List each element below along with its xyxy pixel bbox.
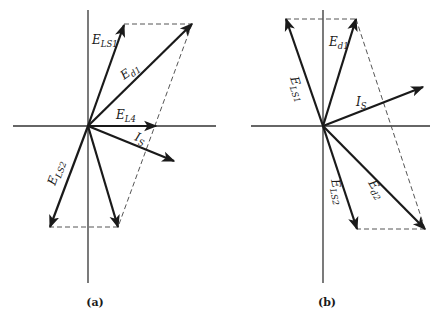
panel-a-phasor-diagram: ELS1Ed1EL4ISELS2(a)	[13, 10, 216, 309]
phasor-label: Ed1	[328, 35, 349, 51]
phasor-i-s	[323, 87, 423, 126]
phasor-label: EL4	[115, 108, 136, 124]
phasor-label: ELS1	[285, 74, 308, 104]
phasor-label: ELS1	[91, 33, 118, 49]
panel-caption: (a)	[86, 296, 104, 309]
dashed-construction-line	[356, 19, 425, 229]
phasor-label: IS	[355, 95, 367, 111]
phasor-e-ls1	[286, 19, 323, 126]
phasor-label: Ed1	[117, 60, 143, 85]
phasor-label: ELS2	[44, 158, 68, 189]
panel-b-phasor-diagram: Ed1ELS1ISELS2Ed2(b)	[251, 10, 430, 309]
phasor-diagram-figure: ELS1Ed1EL4ISELS2(a) Ed1ELS1ISELS2Ed2(b)	[0, 0, 436, 320]
phasor-i-s	[88, 126, 174, 161]
phasor-label: Ed2	[363, 176, 387, 202]
panel-caption: (b)	[318, 296, 336, 309]
phasor-e-d2	[88, 126, 118, 227]
phasor-e-d1	[323, 19, 356, 126]
